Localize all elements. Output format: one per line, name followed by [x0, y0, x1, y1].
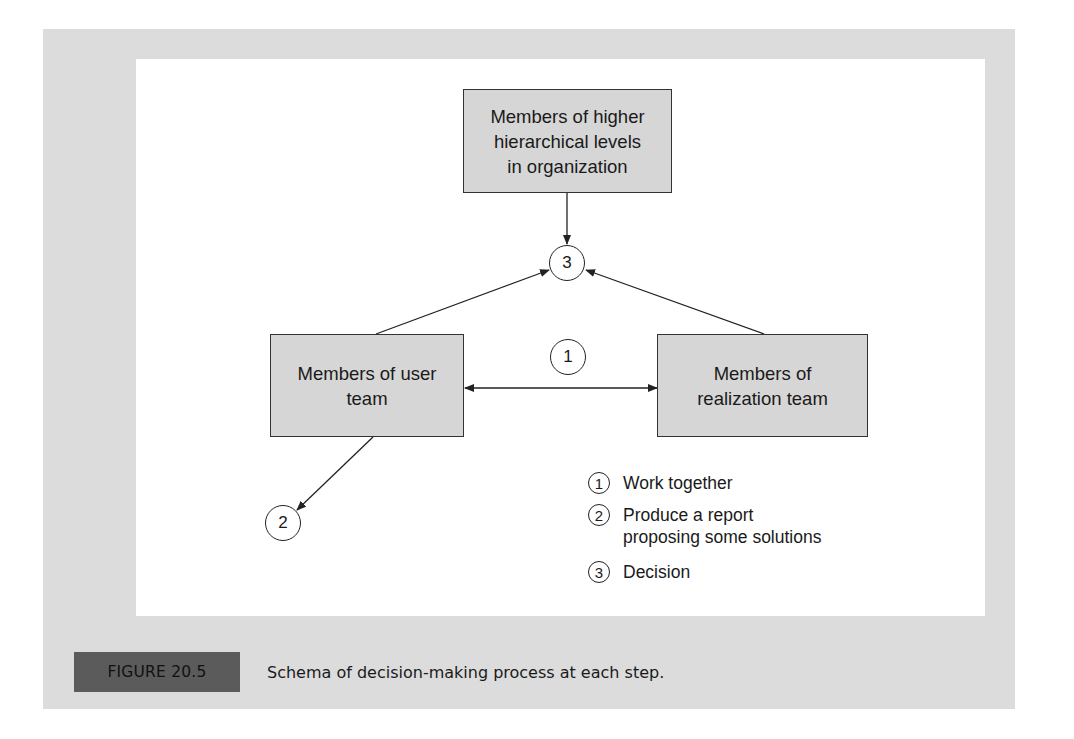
- node-text: in organization: [490, 154, 644, 179]
- legend-number: 1: [588, 472, 610, 494]
- legend-text: proposing some solutions: [623, 526, 821, 548]
- legend-text: Produce a report: [623, 504, 821, 526]
- marker-decision: 3: [549, 245, 585, 281]
- marker-report: 2: [265, 505, 301, 541]
- node-text: realization team: [697, 386, 828, 411]
- legend-item: 3 Decision: [588, 561, 690, 583]
- edge-user-to-report: [297, 437, 373, 510]
- marker-number: 2: [278, 513, 287, 533]
- legend-number: 3: [588, 561, 610, 583]
- legend-text: Work together: [623, 472, 733, 494]
- marker-number: 3: [562, 253, 571, 273]
- legend-number: 2: [588, 504, 610, 526]
- node-text: Members of higher: [490, 104, 644, 129]
- legend-text: Decision: [623, 561, 690, 583]
- node-user-team: Members of user team: [270, 334, 464, 437]
- node-realization-team: Members of realization team: [657, 334, 868, 437]
- node-text: team: [298, 386, 437, 411]
- node-text: Members of user: [298, 361, 437, 386]
- edge-user-to-decision: [376, 270, 549, 334]
- figure-caption: Schema of decision-making process at eac…: [267, 652, 664, 692]
- marker-work-together: 1: [550, 339, 586, 375]
- node-text: hierarchical levels: [490, 129, 644, 154]
- node-higher-levels: Members of higher hierarchical levels in…: [463, 89, 672, 193]
- legend-item: 1 Work together: [588, 472, 733, 494]
- legend-item: 2 Produce a report proposing some soluti…: [588, 504, 821, 548]
- edge-realization-to-decision: [586, 270, 764, 334]
- marker-number: 1: [563, 347, 572, 367]
- node-text: Members of: [697, 361, 828, 386]
- figure-label: FIGURE 20.5: [74, 652, 240, 692]
